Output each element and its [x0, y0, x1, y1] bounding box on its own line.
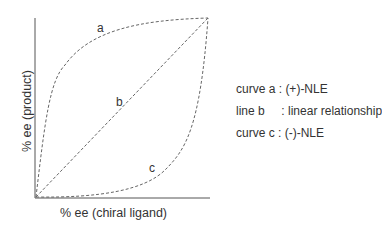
label-c: c: [149, 161, 155, 175]
y-axis-label: % ee (product): [20, 56, 34, 166]
legend-key: curve a: [236, 82, 275, 96]
label-b: b: [116, 95, 123, 109]
x-axis-label: % ee (chiral ligand): [60, 206, 167, 220]
legend: curve a : (+)-NLE line b : linear relati…: [236, 78, 382, 144]
legend-item-c: curve c : (-)-NLE: [236, 122, 382, 144]
legend-sep: :: [275, 82, 285, 96]
legend-item-b: line b : linear relationship: [236, 100, 382, 122]
legend-sep: :: [275, 126, 285, 140]
legend-text: (+)-NLE: [285, 82, 327, 96]
legend-key: curve c: [236, 126, 275, 140]
legend-text: linear relationship: [288, 104, 382, 118]
legend-text: (-)-NLE: [285, 126, 324, 140]
label-a: a: [97, 21, 104, 35]
legend-key: line b: [236, 104, 265, 118]
legend-item-a: curve a : (+)-NLE: [236, 78, 382, 100]
legend-sep: :: [265, 104, 288, 118]
